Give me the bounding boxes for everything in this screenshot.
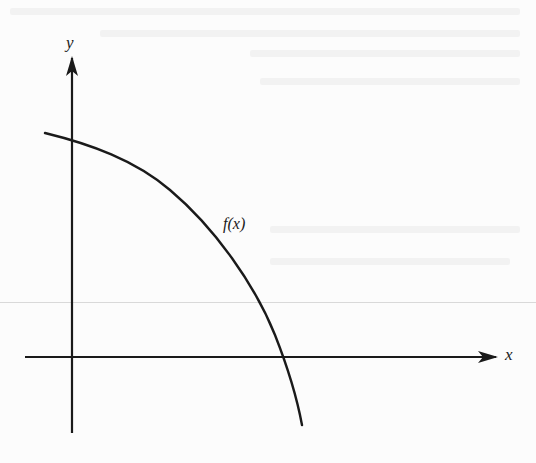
scanned-page: y x f(x) [0, 0, 536, 463]
y-axis-label: y [66, 34, 74, 51]
function-graph [0, 0, 536, 463]
curve-label: f(x) [223, 216, 245, 232]
function-curve [45, 133, 302, 425]
x-axis-label: x [505, 346, 513, 363]
